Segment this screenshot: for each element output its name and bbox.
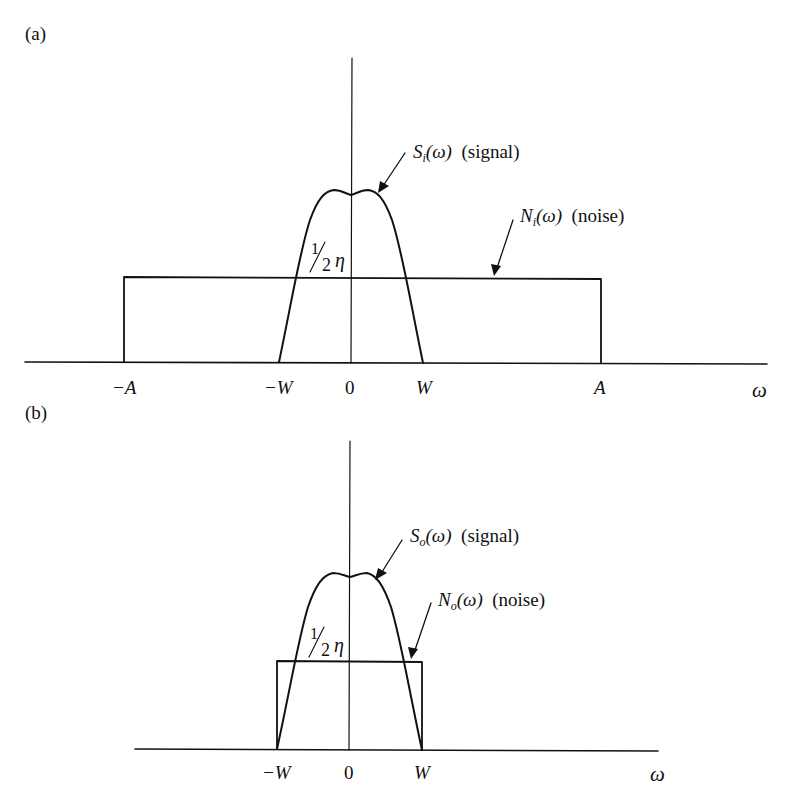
b-tick-zero: 0 [344,763,354,782]
b-signal-symbol: S [410,525,420,546]
b-noise-desc: (noise) [492,589,545,610]
a-signal-arg: (ω) [426,141,452,162]
panel-b-label: (b) [25,403,47,422]
a-noise-arrowhead [491,264,501,276]
b-noise-label: No(ω) (noise) [438,590,545,612]
b-signal-arrow [382,540,402,572]
a-half-den: 2 [322,256,331,274]
a-signal-symbol: S [413,141,423,162]
b-half-den: 2 [321,641,330,659]
b-axis-label-omega: ω [650,764,665,785]
panel-a-label: (a) [25,24,46,43]
b-eta: η [334,635,344,655]
a-tick-neg-a: −A [112,378,136,397]
a-noise-symbol: N [520,205,533,226]
b-x-axis [135,749,658,751]
diagram-canvas [0,0,794,811]
b-noise-arg: (ω) [457,589,483,610]
a-signal-arrowhead [378,181,389,193]
b-signal-arg: (ω) [426,525,452,546]
a-signal-arrow [383,153,405,186]
a-noise-rect [124,277,601,363]
a-y-axis [351,58,352,363]
b-y-axis [349,441,350,750]
b-half-num: 1 [310,626,318,642]
b-tick-w: W [414,763,430,782]
b-tick-neg-w: −W [262,763,291,782]
a-noise-label: Ni(ω) (noise) [520,206,624,228]
b-noise-arrow [415,603,431,650]
a-tick-w: W [416,378,432,397]
a-half-num: 1 [311,241,319,257]
a-signal-label: Si(ω) (signal) [413,142,519,164]
b-signal-arrowhead [375,568,387,580]
a-noise-arrow [497,220,513,268]
a-tick-a: A [594,378,606,397]
b-signal-label: So(ω) (signal) [410,526,519,548]
a-tick-zero: 0 [345,378,355,397]
a-x-axis [25,362,767,364]
a-signal-desc: (signal) [461,141,519,162]
b-noise-arrowhead [408,647,418,659]
a-noise-arg: (ω) [536,205,562,226]
b-noise-symbol: N [438,589,451,610]
a-eta: η [335,250,345,270]
b-signal-desc: (signal) [461,525,519,546]
a-axis-label-omega: ω [752,380,767,401]
a-noise-desc: (noise) [572,205,625,226]
a-tick-neg-w: −W [264,378,293,397]
